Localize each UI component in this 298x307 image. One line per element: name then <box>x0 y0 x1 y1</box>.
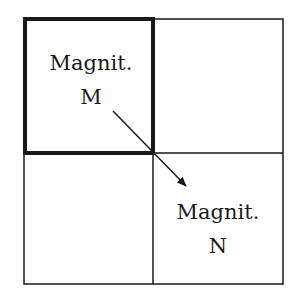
cell-n-label-line2: N <box>209 234 227 258</box>
cell-m-label-line2: M <box>80 85 102 109</box>
cell-n-label-line1: Magnit. <box>177 200 260 224</box>
cell-m-label-line1: Magnit. <box>50 51 133 75</box>
arrow-m-to-n <box>113 111 186 186</box>
grid-diagram: Magnit. M Magnit. N <box>0 0 298 307</box>
